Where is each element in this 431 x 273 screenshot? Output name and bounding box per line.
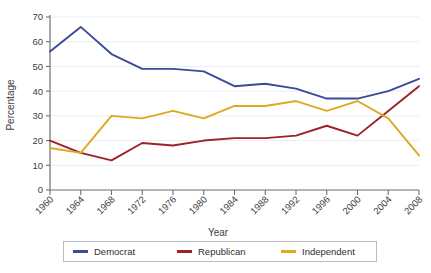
legend-item-democrat[interactable]: Democrat — [64, 246, 168, 257]
y-tick-label: 50 — [32, 61, 43, 72]
line-chart: 010203040506070 196019641968197219761980… — [0, 0, 431, 273]
y-axis-title: Percentage — [5, 79, 16, 131]
x-tick-label: 2008 — [402, 194, 425, 217]
x-tick-label: 1988 — [248, 194, 271, 217]
x-tick-label: 2000 — [340, 194, 363, 217]
y-tick-label: 60 — [32, 36, 43, 47]
legend-label: Independent — [302, 246, 355, 257]
y-axis: 010203040506070 — [32, 11, 50, 195]
x-tick-label: 1968 — [94, 194, 117, 217]
y-tick-label: 30 — [32, 110, 43, 121]
series-line-independent — [50, 101, 419, 155]
legend-swatch-icon — [281, 250, 296, 252]
y-tick-label: 70 — [32, 11, 43, 22]
chart-legend: DemocratRepublicanIndependent — [63, 241, 377, 262]
x-tick-label: 1984 — [217, 194, 240, 217]
x-tick-label: 1976 — [156, 194, 179, 217]
chart-plot-area: 010203040506070 196019641968197219761980… — [0, 0, 431, 273]
x-axis-title: Year — [208, 227, 229, 238]
x-tick-label: 1964 — [63, 194, 86, 217]
series-line-democrat — [50, 27, 419, 99]
x-tick-label: 1996 — [309, 194, 332, 217]
legend-swatch-icon — [177, 250, 192, 252]
y-tick-label: 40 — [32, 86, 43, 97]
x-tick-label: 1960 — [33, 194, 56, 217]
legend-label: Republican — [198, 246, 246, 257]
y-tick-label: 0 — [38, 184, 43, 195]
legend-label: Democrat — [94, 246, 135, 257]
y-tick-label: 20 — [32, 135, 43, 146]
grid-lines — [50, 17, 419, 165]
y-tick-label: 10 — [32, 160, 43, 171]
x-tick-label: 1992 — [279, 194, 302, 217]
legend-swatch-icon — [73, 250, 88, 252]
x-tick-label: 2004 — [371, 194, 394, 217]
x-axis: 1960196419681972197619801984198819921996… — [33, 190, 425, 216]
legend-item-republican[interactable]: Republican — [168, 246, 272, 257]
legend-item-independent[interactable]: Independent — [272, 246, 376, 257]
x-tick-label: 1972 — [125, 194, 148, 217]
x-tick-label: 1980 — [186, 194, 209, 217]
